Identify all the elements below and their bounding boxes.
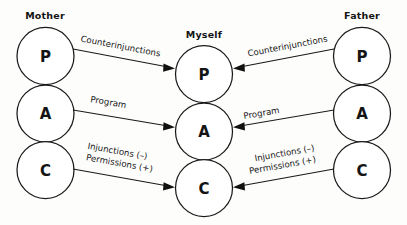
ego-state-mother-a: A	[17, 85, 74, 142]
ego-state-myself-a: A	[176, 103, 233, 160]
ego-state-myself-p: P	[176, 46, 233, 103]
ego-state-mother-c: C	[17, 142, 74, 199]
arrow-head-mother-c	[163, 182, 175, 190]
script-matrix-diagram: Mother Myself Father P A C P A C	[0, 0, 407, 225]
ego-letter-father-p: P	[357, 48, 368, 66]
ego-letter-myself-c: C	[198, 180, 209, 198]
ego-letter-father-a: A	[356, 105, 368, 123]
arrow-label-mother-p-counterinjunctions: Counterinjunctions	[80, 34, 162, 59]
ego-letter-mother-a: A	[40, 105, 52, 123]
arrow-mother-a-to-myself-a: Program	[73, 94, 175, 130]
arrow-head-mother-a	[163, 122, 175, 130]
ego-state-father-a: A	[334, 85, 391, 142]
ego-state-myself-c: C	[176, 160, 233, 217]
column-title-myself: Myself	[186, 29, 223, 40]
arrow-mother-p-to-myself-p: Counterinjunctions	[73, 34, 175, 72]
column-title-mother: Mother	[25, 10, 65, 21]
arrow-father-c-to-myself-c: Injunctions (–) Permissions (+)	[233, 143, 334, 191]
column-title-father: Father	[344, 10, 380, 21]
ego-state-mother-p: P	[17, 28, 74, 85]
arrow-head-father-a	[233, 122, 245, 130]
ego-state-father-c: C	[334, 142, 391, 199]
arrow-label-father-a-program: Program	[243, 105, 280, 121]
arrow-line-mother-c	[73, 169, 168, 186]
arrow-father-a-to-myself-a: Program	[233, 105, 334, 130]
ego-letter-myself-a: A	[198, 123, 210, 141]
arrow-head-father-c	[233, 182, 245, 190]
diagram-canvas: Mother Myself Father P A C P A C	[0, 0, 407, 225]
arrow-mother-c-to-myself-c: Injunctions (–) Permissions (+)	[73, 141, 175, 191]
ego-letter-mother-c: C	[40, 162, 51, 180]
ego-letter-mother-p: P	[40, 48, 51, 66]
arrow-father-p-to-myself-p: Counterinjunctions	[233, 34, 334, 72]
arrow-label-mother-a-program: Program	[90, 94, 127, 110]
arrow-label-father-p-counterinjunctions: Counterinjunctions	[247, 34, 329, 59]
ego-letter-father-c: C	[356, 162, 367, 180]
ego-state-father-p: P	[334, 28, 391, 85]
ego-letter-myself-p: P	[199, 66, 210, 84]
arrow-line-mother-a	[73, 110, 168, 126]
arrow-head-mother-p	[163, 64, 175, 72]
arrow-head-father-p	[233, 64, 245, 72]
